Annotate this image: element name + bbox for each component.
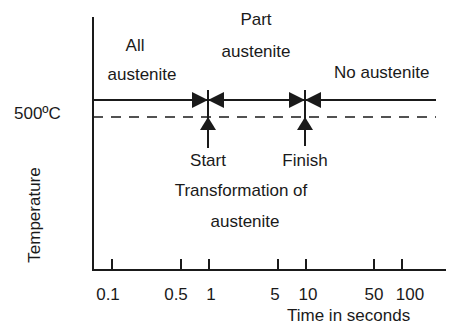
region-all-austenite-line1: All (100, 36, 170, 56)
start-arrow-left-icon (208, 92, 224, 108)
transformation-label-line2: austenite (190, 212, 300, 232)
region-part-austenite-line2: austenite (206, 42, 306, 62)
x-tick-0.1: 0.1 (96, 285, 120, 305)
temperature-label: 500ºC (14, 104, 61, 124)
start-label: Start (180, 151, 236, 171)
finish-arrow-up-icon (297, 117, 313, 130)
region-all-austenite-line2: austenite (100, 65, 184, 85)
finish-arrow-right-icon (289, 92, 305, 108)
x-tick-0.5: 0.5 (164, 285, 188, 305)
x-tick-10: 10 (299, 285, 318, 305)
x-axis-label: Time in seconds (287, 306, 410, 326)
start-arrow-up-icon (200, 117, 216, 130)
region-no-austenite: No austenite (334, 63, 429, 83)
x-tick-50: 50 (365, 285, 384, 305)
region-part-austenite-line1: Part (206, 10, 306, 30)
x-tick-5: 5 (270, 285, 279, 305)
finish-label: Finish (272, 151, 338, 171)
finish-arrow-left-icon (305, 92, 321, 108)
transformation-label-line1: Transformation of (160, 181, 322, 201)
x-tick-100: 100 (396, 285, 424, 305)
y-axis-label: Temperature (25, 160, 45, 270)
x-tick-1: 1 (206, 285, 215, 305)
start-arrow-right-icon (192, 92, 208, 108)
